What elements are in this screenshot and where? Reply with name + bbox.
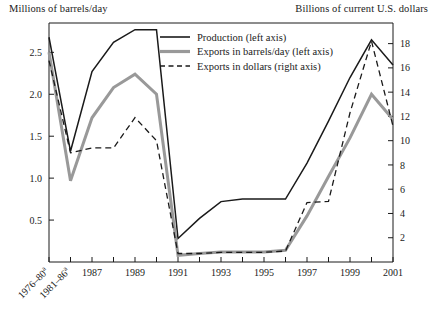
x-tick-label: 1999 <box>340 267 360 278</box>
x-tick-label: 1997 <box>297 267 317 278</box>
left-tick-label: 2.5 <box>30 47 43 58</box>
series-line <box>49 52 393 255</box>
legend-label: Exports in dollars (right axis) <box>197 61 321 73</box>
right-tick-label: 10 <box>400 135 410 146</box>
left-tick-label: 1.0 <box>30 173 43 184</box>
chart-legend: Production (left axis)Exports in barrels… <box>160 32 333 73</box>
x-tick-label: 1991 <box>168 267 188 278</box>
right-tick-label: 8 <box>400 160 405 171</box>
left-tick-label: 0.5 <box>30 215 43 226</box>
line-chart-plot: 0.51.01.52.02.5 24681012141618 1976–80a1… <box>0 0 432 310</box>
x-tick-label: 2001 <box>383 267 403 278</box>
right-tick-label: 14 <box>400 87 410 98</box>
right-tick-label: 2 <box>400 232 405 243</box>
left-axis-ticks: 0.51.01.52.02.5 <box>30 47 55 226</box>
right-tick-label: 12 <box>400 111 410 122</box>
left-tick-label: 1.5 <box>30 131 43 142</box>
chart-figure: Millions of barrels/day Billions of curr… <box>0 0 432 310</box>
right-tick-label: 6 <box>400 184 405 195</box>
right-axis-ticks: 24681012141618 <box>388 38 410 243</box>
x-tick-label: 1987 <box>82 267 102 278</box>
left-tick-label: 2.0 <box>30 89 43 100</box>
right-tick-label: 4 <box>400 208 405 219</box>
x-tick-label: 1995 <box>254 267 274 278</box>
legend-label: Exports in barrels/day (left axis) <box>197 46 333 58</box>
right-tick-label: 18 <box>400 38 410 49</box>
right-tick-label: 16 <box>400 62 410 73</box>
x-axis-ticks: 1976–80a1981–86a198719891991199319951997… <box>15 257 403 300</box>
x-tick-label: 1993 <box>211 267 231 278</box>
x-tick-label: 1989 <box>125 267 145 278</box>
legend-label: Production (left axis) <box>197 32 287 44</box>
right-axis-title: Billions of current U.S. dollars <box>295 3 428 14</box>
left-axis-title: Millions of barrels/day <box>9 3 108 14</box>
series-line <box>49 41 393 253</box>
